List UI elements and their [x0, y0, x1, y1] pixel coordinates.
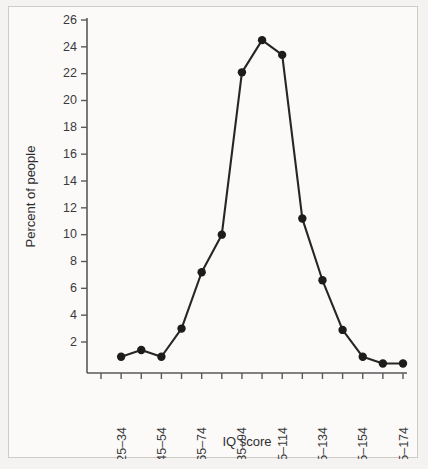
figure-frame: 246810121416182022242625–3445–5465–7485–… — [8, 6, 418, 458]
y-tick-label: 4 — [70, 308, 77, 322]
y-tick-label: 12 — [63, 201, 77, 215]
data-line — [121, 40, 403, 363]
data-point[interactable] — [278, 51, 286, 59]
y-tick-label: 2 — [70, 335, 77, 349]
data-point[interactable] — [137, 346, 145, 354]
y-tick-label: 8 — [70, 254, 77, 268]
y-tick-label: 26 — [63, 13, 77, 27]
y-tick-label: 16 — [63, 147, 77, 161]
y-tick-label: 22 — [63, 66, 77, 80]
data-point[interactable] — [379, 359, 387, 367]
x-tick-label: 25–34 — [115, 427, 129, 459]
data-point[interactable] — [218, 230, 226, 238]
data-point[interactable] — [338, 326, 346, 334]
y-tick-label: 14 — [63, 174, 77, 188]
y-tick-label: 20 — [63, 93, 77, 107]
x-tick-label: 65–74 — [195, 427, 209, 459]
data-point[interactable] — [117, 353, 125, 361]
y-tick-label: 24 — [63, 40, 77, 54]
y-tick-label: 18 — [63, 120, 77, 134]
data-point[interactable] — [399, 359, 407, 367]
data-point[interactable] — [157, 353, 165, 361]
x-tick-label: 45–54 — [155, 427, 169, 459]
data-point[interactable] — [258, 36, 266, 44]
x-tick-label: 105–114 — [276, 427, 290, 459]
iq-distribution-chart: 246810121416182022242625–3445–5465–7485–… — [9, 7, 419, 459]
chart-canvas: 246810121416182022242625–3445–5465–7485–… — [9, 7, 419, 459]
y-tick-label: 6 — [70, 281, 77, 295]
data-point[interactable] — [318, 276, 326, 284]
data-point[interactable] — [177, 324, 185, 332]
x-tick-label: 145–154 — [356, 427, 370, 459]
data-point[interactable] — [238, 68, 246, 76]
data-point[interactable] — [359, 353, 367, 361]
data-point[interactable] — [298, 214, 306, 222]
x-tick-label: 165–174 — [397, 427, 411, 459]
y-tick-label: 10 — [63, 227, 77, 241]
y-axis-title: Percent of people — [23, 146, 38, 248]
x-tick-label: 125–134 — [316, 427, 330, 459]
x-axis-title: IQ score — [222, 434, 271, 449]
data-point[interactable] — [197, 268, 205, 276]
